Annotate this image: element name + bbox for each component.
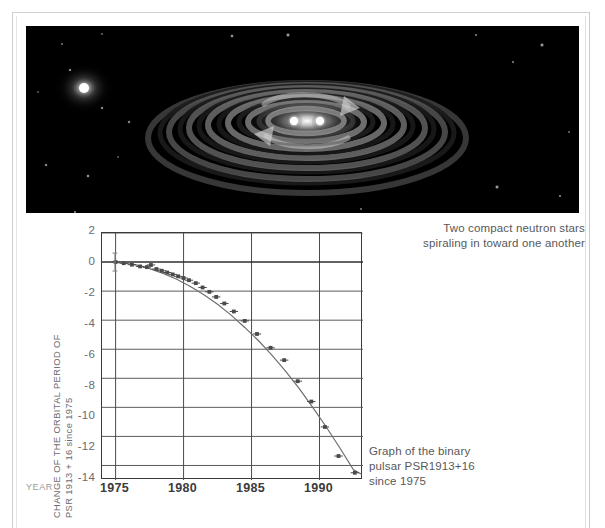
bright-star xyxy=(54,62,114,114)
y-tick-m10: -10 xyxy=(67,409,95,421)
theory-curve xyxy=(112,262,362,474)
x-tick-1990: 1990 xyxy=(288,481,348,495)
x-tick-1975: 1975 xyxy=(84,481,144,495)
graph-caption-line-2: pulsar PSR1913+16 xyxy=(369,459,579,474)
y-tick-m6: -6 xyxy=(67,348,95,360)
chart-data-layer xyxy=(102,233,363,480)
page-border-top xyxy=(12,12,590,13)
y-tick-2: 2 xyxy=(67,224,95,236)
x-axis-title: YEAR xyxy=(26,482,53,492)
y-tick-0: 0 xyxy=(67,255,95,267)
plot-frame xyxy=(101,232,362,479)
x-axis-tick-labels: 1975 1980 1985 1990 xyxy=(101,481,391,501)
y-tick-m12: -12 xyxy=(67,440,95,452)
core-glow xyxy=(267,105,347,137)
graph-caption-line-1: Graph of the binary xyxy=(369,444,579,459)
graph-caption-line-3: since 1975 xyxy=(369,474,579,489)
y-axis-tick-labels: 2 0 -2 -4 -6 -8 -10 -12 -14 xyxy=(61,232,95,479)
y-tick-m8: -8 xyxy=(67,379,95,391)
figure-page: Two compact neutron stars spiraling in t… xyxy=(0,0,605,528)
observed-data-points xyxy=(111,260,359,474)
x-tick-1985: 1985 xyxy=(220,481,280,495)
graph-caption: Graph of the binary pulsar PSR1913+16 si… xyxy=(369,444,579,489)
neutron-star-illustration xyxy=(26,26,579,213)
y-tick-m4: -4 xyxy=(67,317,95,329)
y-tick-m2: -2 xyxy=(67,286,95,298)
x-tick-1980: 1980 xyxy=(152,481,212,495)
